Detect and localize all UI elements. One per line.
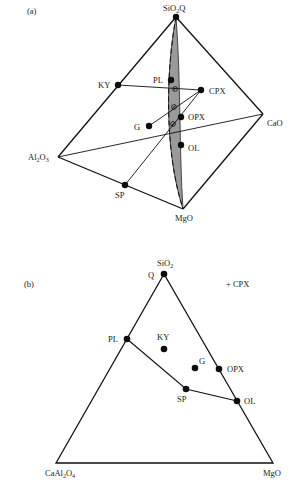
tie-ky-cpx: [118, 85, 201, 90]
phase-label-q: Q: [148, 270, 154, 280]
phase-label-ky: KY: [98, 80, 110, 90]
phase-point-pl: [168, 77, 174, 83]
phase-point-sp: [122, 182, 128, 188]
phase-point-opx: [178, 114, 184, 120]
vertex-label-al2o3: Al2O3: [28, 152, 49, 163]
panel-a-label: (a): [27, 6, 37, 16]
phase-point-g: [146, 123, 152, 129]
phase-point-sp: [183, 386, 190, 393]
phase-label-ol-b: OL: [244, 396, 255, 406]
panel-a: (a) SiO2Q Al2O3 CaO Mg: [27, 3, 283, 223]
phase-label-pl: PL: [153, 75, 163, 85]
vertex-label-mgo-b: MgO: [263, 468, 281, 478]
tie-sp-cpx: [125, 90, 201, 185]
vertex-label-caal2o4: CaAl2O4: [45, 468, 75, 479]
phase-diagram-figure: (a) SiO2Q Al2O3 CaO Mg: [0, 0, 296, 488]
phase-label-opx-b: OPX: [227, 364, 244, 374]
phase-point-g: [192, 365, 199, 372]
vertex-label-mgo: MgO: [175, 213, 193, 223]
phase-label-g-b: G: [199, 356, 205, 366]
vertex-label-sio2: SiO2: [157, 258, 173, 269]
phase-point-opx: [216, 366, 223, 373]
phase-label-pl-b: PL: [108, 334, 118, 344]
edge-al2o3-mgo: [58, 157, 183, 209]
phase-label-cpx: CPX: [209, 86, 226, 96]
panel-b-label: (b): [24, 279, 34, 289]
edge-apex-cao: [176, 17, 263, 114]
phase-point-pl: [124, 336, 131, 343]
vertex-label-sio2q: SiO2Q: [163, 3, 185, 14]
phase-label-opx: OPX: [188, 112, 205, 122]
phase-point-cpx: [198, 87, 204, 93]
phase-label-sp-b: SP: [177, 394, 187, 404]
phase-point-ol: [234, 398, 241, 405]
phase-point-q: [161, 271, 168, 278]
phase-point-ol: [178, 142, 184, 148]
panel-b: (b) + CPX SiO2 Q CaAl2O4 MgO PL KY G OPX…: [24, 258, 281, 479]
phase-label-ol: OL: [188, 143, 199, 153]
vertex-label-cao: CaO: [267, 118, 283, 128]
phase-point-ky: [115, 82, 121, 88]
phase-label-ky-b: KY: [157, 332, 169, 342]
phase-label-sp: SP: [115, 190, 125, 200]
plus-cpx-note: + CPX: [226, 279, 249, 289]
phase-point-ky: [161, 346, 168, 353]
phase-label-g: G: [134, 122, 140, 132]
apex-point: [173, 14, 179, 20]
